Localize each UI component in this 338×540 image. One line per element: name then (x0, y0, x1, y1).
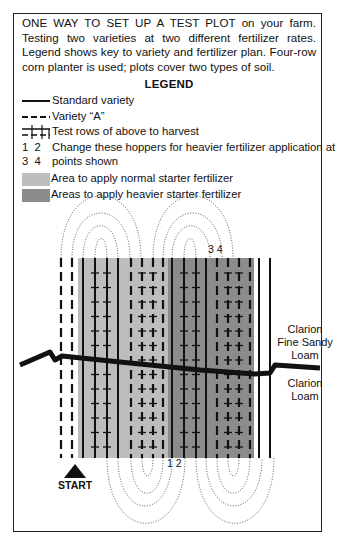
soil-upper-line: Clarion (275, 323, 335, 336)
soil-lower-line: Clarion (275, 377, 335, 390)
soil-label-lower: Clarion Loam (275, 377, 335, 403)
soil-upper-line: Fine Sandy (275, 336, 335, 349)
soil-upper-line: Loam (275, 349, 335, 362)
start-arrow-icon (64, 464, 86, 478)
soil-lower-line: Loam (275, 390, 335, 403)
hopper-label-12: 1 2 (167, 457, 182, 470)
start-label: START (58, 479, 92, 492)
soil-label-upper: Clarion Fine Sandy Loam (275, 323, 335, 362)
turn-paths-bottom (107, 458, 274, 523)
hopper-label-34: 3 4 (208, 243, 223, 256)
